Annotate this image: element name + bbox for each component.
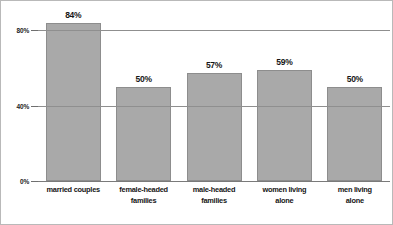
bar-value-label: 84% [46,10,101,20]
bar-value-label: 57% [187,60,242,70]
x-axis-label-line: female-headed [108,185,178,196]
x-axis-label-line: alone [320,196,390,207]
x-axis-label-line: families [108,196,178,207]
bars-layer: 84%50%57%59%50% [38,15,390,181]
bar-chart: 84%50%57%59%50% 0%40%80% married couples… [0,0,393,225]
bar[interactable] [116,87,171,181]
bar-value-label: 50% [116,74,171,84]
bar-group[interactable]: 57% [187,15,242,181]
bar-value-label: 50% [327,74,382,84]
bar-group[interactable]: 59% [257,15,312,181]
x-axis-label: male-headedfamilies [179,185,249,206]
y-tick-mark [31,30,38,31]
bar[interactable] [257,70,312,181]
x-axis-label: married couples [38,185,108,196]
bar[interactable] [327,87,382,181]
x-axis-label-line: families [179,196,249,207]
bar-value-label: 59% [257,57,312,67]
y-tick-label: 0% [20,178,29,185]
x-axis-label: female-headedfamilies [108,185,178,206]
y-tick-mark [31,181,38,182]
y-tick-label: 40% [17,102,29,109]
bar-group[interactable]: 84% [46,15,101,181]
gridline [38,106,390,107]
x-axis-label-line: alone [249,196,319,207]
x-axis-label-line: male-headed [179,185,249,196]
bar[interactable] [46,23,101,181]
plot-area: 84%50%57%59%50% 0%40%80% [38,15,390,181]
bar-group[interactable]: 50% [327,15,382,181]
y-tick-label: 80% [17,27,29,34]
gridline [38,30,390,31]
x-axis-category-labels: married couplesfemale-headedfamiliesmale… [38,185,390,221]
y-tick-mark [31,106,38,107]
bar-group[interactable]: 50% [116,15,171,181]
x-axis-label-line: married couples [38,185,108,196]
axis-baseline [38,181,390,182]
x-axis-label: men livingalone [320,185,390,206]
x-axis-label-line: women living [249,185,319,196]
x-axis-label: women livingalone [249,185,319,206]
bar[interactable] [187,73,242,181]
x-axis-label-line: men living [320,185,390,196]
